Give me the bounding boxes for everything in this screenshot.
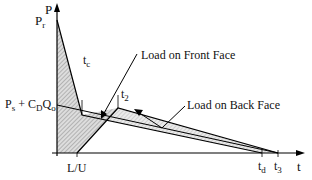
front-face-label: Load on Front Face	[141, 49, 235, 61]
blast-load-diagram: P t Pr Ps + CDQo tc t2 L/U td t3 Load on…	[0, 0, 312, 180]
t2-label: t2	[121, 88, 129, 103]
ps-label: Ps + CDQo	[5, 98, 56, 113]
lu-label: L/U	[67, 162, 86, 174]
diagram-graphic	[0, 0, 312, 180]
x-axis-label: t	[297, 160, 301, 173]
front-label-leader	[103, 54, 137, 115]
y-axis-label: P	[45, 3, 52, 16]
net-load-shaded-area	[57, 20, 118, 153]
pr-label: Pr	[35, 14, 45, 30]
back-face-label: Load on Back Face	[187, 99, 280, 111]
tc-label: tc	[83, 54, 90, 69]
td-label: td	[258, 160, 266, 175]
y-axis-arrow-icon	[54, 3, 60, 12]
t3-label: t3	[274, 160, 282, 175]
x-axis-arrow-icon	[296, 150, 305, 156]
